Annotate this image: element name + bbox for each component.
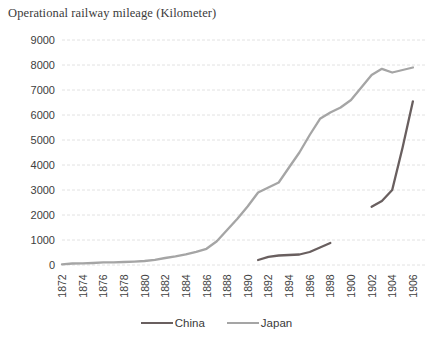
y-tick-label: 2000	[0, 208, 55, 222]
y-tick-label: 8000	[0, 58, 55, 72]
x-tick-label: 1878	[118, 273, 130, 299]
x-tick-label: 1874	[77, 273, 89, 299]
x-tick-label: 1906	[407, 273, 419, 299]
x-tick-label: 1904	[386, 273, 398, 299]
x-tick-label: 1890	[242, 273, 254, 299]
legend: China Japan	[0, 317, 433, 329]
x-tick-label: 1872	[56, 273, 68, 299]
chart-panel: Operational railway mileage (Kilometer) …	[0, 0, 433, 342]
x-tick-label: 1880	[139, 273, 151, 299]
legend-item-japan: Japan	[227, 317, 292, 329]
x-tick-label: 1898	[324, 273, 336, 299]
y-tick-label: 6000	[0, 108, 55, 122]
x-tick-label: 1900	[345, 273, 357, 299]
legend-label-japan: Japan	[261, 317, 292, 329]
y-tick-label: 7000	[0, 83, 55, 97]
gridlines	[62, 40, 426, 265]
x-tick-label: 1886	[201, 273, 213, 299]
legend-label-china: China	[175, 317, 205, 329]
y-tick-label: 5000	[0, 133, 55, 147]
series-line-japan	[62, 68, 413, 265]
x-tick-label: 1902	[366, 273, 378, 299]
y-tick-label: 1000	[0, 233, 55, 247]
y-tick-label: 3000	[0, 183, 55, 197]
x-tick-label: 1888	[221, 273, 233, 299]
x-tick-label: 1882	[159, 273, 171, 299]
y-tick-label: 0	[0, 258, 55, 272]
legend-item-china: China	[141, 317, 205, 329]
x-tick-label: 1894	[283, 273, 295, 299]
legend-line-china	[141, 322, 173, 325]
y-tick-label: 9000	[0, 33, 55, 47]
x-tick-label: 1876	[97, 273, 109, 299]
legend-line-japan	[227, 322, 259, 325]
x-tick-label: 1892	[262, 273, 274, 299]
x-tick-label: 1896	[304, 273, 316, 299]
x-tick-label: 1884	[180, 273, 192, 299]
y-tick-label: 4000	[0, 158, 55, 172]
